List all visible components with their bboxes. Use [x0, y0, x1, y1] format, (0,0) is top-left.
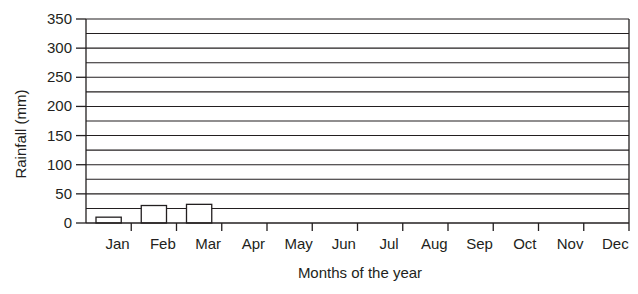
x-tick-label-oct: Oct	[513, 235, 537, 252]
y-tick-label: 50	[55, 185, 72, 202]
bar-feb	[141, 206, 166, 223]
y-tick-label: 150	[47, 127, 72, 144]
x-tick-label-nov: Nov	[557, 235, 584, 252]
y-axis-ticks: 050100150200250300350	[47, 10, 86, 231]
x-axis-ticks: JanFebMarAprMayJunJulAugSepOctNovDec	[106, 223, 630, 252]
x-axis-label: Months of the year	[298, 264, 422, 281]
gridlines	[86, 19, 629, 208]
x-tick-label-aug: Aug	[421, 235, 448, 252]
x-tick-label-jun: Jun	[332, 235, 356, 252]
x-tick-label-jan: Jan	[106, 235, 130, 252]
x-tick-label-feb: Feb	[150, 235, 176, 252]
bar-jan	[96, 217, 121, 223]
y-tick-label: 250	[47, 68, 72, 85]
y-tick-label: 0	[64, 214, 72, 231]
rainfall-bar-chart: 050100150200250300350 JanFebMarAprMayJun…	[0, 0, 638, 294]
x-tick-label-jul: Jul	[380, 235, 399, 252]
y-tick-label: 100	[47, 156, 72, 173]
y-axis-label: Rainfall (mm)	[12, 89, 29, 178]
x-tick-label-may: May	[284, 235, 313, 252]
x-tick-label-sep: Sep	[466, 235, 493, 252]
y-tick-label: 300	[47, 39, 72, 56]
x-tick-label-apr: Apr	[242, 235, 265, 252]
x-tick-label-dec: Dec	[602, 235, 629, 252]
bar-mar	[187, 204, 212, 223]
y-tick-label: 350	[47, 10, 72, 27]
x-tick-label-mar: Mar	[195, 235, 221, 252]
y-tick-label: 200	[47, 97, 72, 114]
bars	[96, 204, 212, 223]
